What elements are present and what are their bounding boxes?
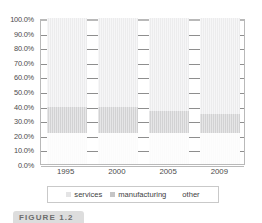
legend-swatch-icon bbox=[174, 192, 179, 197]
bar-group-2000[interactable] bbox=[98, 20, 138, 164]
bar-segment-manufacturing[interactable] bbox=[47, 107, 87, 133]
figure-caption-text: FIGURE 1.2 bbox=[19, 213, 74, 222]
plot-area bbox=[40, 19, 245, 165]
bar-segment-services[interactable] bbox=[149, 18, 189, 111]
y-axis-tick-label: 60.0% bbox=[14, 73, 34, 82]
legend-item-manufacturing[interactable]: manufacturing bbox=[106, 190, 170, 199]
y-axis-tick-label: 100.0% bbox=[10, 15, 34, 24]
bar-segment-other[interactable] bbox=[200, 133, 240, 164]
bar-segment-other[interactable] bbox=[149, 133, 189, 164]
bar-segment-manufacturing[interactable] bbox=[200, 114, 240, 133]
legend-item-services[interactable]: services bbox=[62, 190, 106, 199]
y-axis-tick-label: 40.0% bbox=[14, 102, 34, 111]
bar-segment-manufacturing[interactable] bbox=[98, 107, 138, 133]
y-axis-tick-label: 70.0% bbox=[14, 58, 34, 67]
bar-segment-manufacturing[interactable] bbox=[149, 111, 189, 133]
x-axis-tick-label: 1995 bbox=[46, 167, 86, 176]
bar-group-2009[interactable] bbox=[200, 20, 240, 164]
legend-swatch-icon bbox=[66, 192, 71, 197]
bar-groups bbox=[41, 20, 244, 164]
bar-group-2005[interactable] bbox=[149, 20, 189, 164]
bar-segment-services[interactable] bbox=[47, 18, 87, 107]
y-axis-labels: 0.0%10.0%20.0%30.0%40.0%50.0%60.0%70.0%8… bbox=[0, 19, 37, 165]
x-axis-tick-label: 2005 bbox=[148, 167, 188, 176]
y-axis-tick-label: 50.0% bbox=[14, 88, 34, 97]
bar-segment-services[interactable] bbox=[200, 18, 240, 114]
legend-label: manufacturing bbox=[118, 190, 166, 199]
bar-segment-other[interactable] bbox=[98, 133, 138, 164]
bar-segment-services[interactable] bbox=[98, 18, 138, 107]
stacked-bar-chart-figure: 0.0%10.0%20.0%30.0%40.0%50.0%60.0%70.0%8… bbox=[0, 0, 262, 223]
y-axis-tick-label: 10.0% bbox=[14, 146, 34, 155]
y-axis-tick-label: 80.0% bbox=[14, 44, 34, 53]
legend-swatch-icon bbox=[110, 192, 115, 197]
chart-legend: servicesmanufacturingother bbox=[47, 186, 219, 203]
legend-label: other bbox=[182, 190, 199, 199]
legend-item-other[interactable]: other bbox=[170, 190, 203, 199]
bar-segment-other[interactable] bbox=[47, 133, 87, 164]
y-axis-tick-label: 20.0% bbox=[14, 131, 34, 140]
y-axis-tick-label: 30.0% bbox=[14, 117, 34, 126]
y-axis-tick-label: 90.0% bbox=[14, 29, 34, 38]
x-axis-labels: 1995200020052009 bbox=[40, 167, 245, 181]
figure-caption-badge: FIGURE 1.2 bbox=[13, 211, 84, 223]
legend-label: services bbox=[74, 190, 102, 199]
x-axis-tick-label: 2000 bbox=[97, 167, 137, 176]
x-axis-tick-label: 2009 bbox=[199, 167, 239, 176]
bar-group-1995[interactable] bbox=[47, 20, 87, 164]
y-axis-tick-label: 0.0% bbox=[18, 161, 34, 170]
